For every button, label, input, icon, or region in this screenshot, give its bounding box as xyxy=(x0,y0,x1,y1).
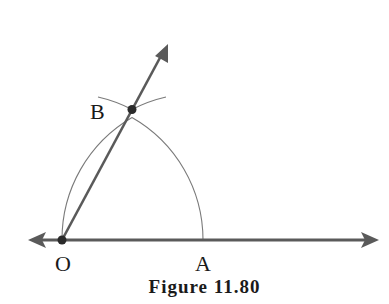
figure-caption: Figure 11.80 xyxy=(0,276,389,298)
geometry-figure: O A B Figure 11.80 xyxy=(0,0,389,304)
point-label-B: B xyxy=(90,101,105,123)
ray-OB xyxy=(62,54,162,240)
arc-center-O xyxy=(132,118,203,241)
point-O xyxy=(58,236,67,245)
ray-arrowhead-icon xyxy=(155,44,168,63)
point-label-O: O xyxy=(55,253,71,275)
point-B xyxy=(128,105,137,114)
point-label-A: A xyxy=(195,253,211,275)
